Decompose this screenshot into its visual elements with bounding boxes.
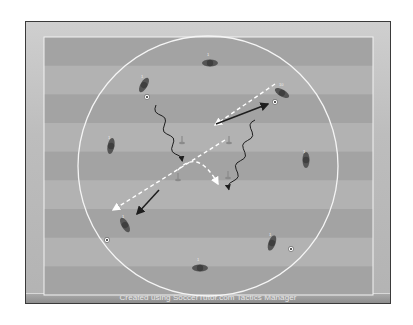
- pitch-stripe: [44, 66, 373, 95]
- pitch-diagram: 111011111: [0, 0, 413, 325]
- pitch-stripe: [44, 180, 373, 209]
- pitch-stripes: [44, 37, 373, 296]
- pitch-stripe: [44, 123, 373, 152]
- ball-icon: [288, 246, 293, 251]
- pitch-stripe: [44, 238, 373, 267]
- player-icon: [202, 60, 218, 67]
- ball-icon: [104, 237, 109, 242]
- ball-icon: [144, 94, 149, 99]
- pitch-stripe: [44, 94, 373, 123]
- pitch-stripe: [44, 152, 373, 181]
- player-number: 10: [279, 82, 284, 87]
- player-icon: [303, 152, 310, 168]
- ball-icon: [272, 99, 277, 104]
- pitch-stripe: [44, 209, 373, 238]
- pitch-stripe: [44, 266, 373, 295]
- player-icon: [192, 265, 208, 272]
